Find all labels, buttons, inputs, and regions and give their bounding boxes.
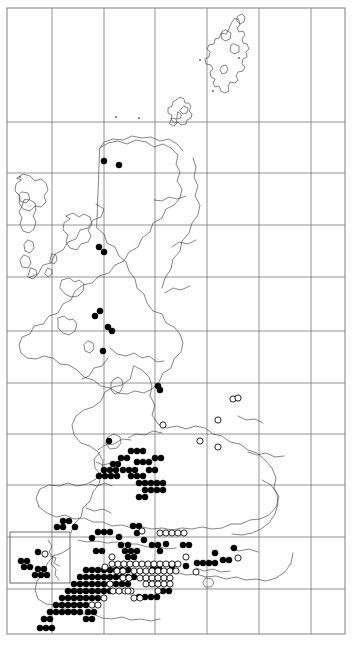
record-symbol-filled-circle [77, 609, 83, 615]
record-symbol-filled-circle [148, 487, 154, 493]
record-symbol-filled-circle [220, 557, 226, 563]
record-symbol-tiny-dot [138, 117, 140, 119]
record-symbol-open-circle [137, 595, 143, 601]
record-symbol-filled-circle [160, 487, 166, 493]
record-symbol-filled-circle [47, 609, 53, 615]
record-symbol-open-circle [155, 588, 161, 594]
record-symbol-open-circle [235, 395, 241, 401]
record-symbol-filled-circle [32, 572, 38, 578]
record-symbol-filled-circle [148, 480, 154, 486]
record-symbol-filled-circle [93, 548, 99, 554]
record-symbol-open-circle [151, 561, 157, 567]
record-symbol-filled-circle [160, 480, 166, 486]
record-symbol-filled-circle [37, 625, 43, 631]
record-symbol-filled-circle [101, 588, 107, 594]
record-symbol-filled-circle [142, 494, 148, 500]
record-symbol-open-circle [183, 554, 189, 560]
record-symbol-filled-circle [102, 473, 108, 479]
record-symbol-filled-circle [194, 560, 200, 566]
record-symbol-filled-circle [226, 557, 232, 563]
record-symbol-filled-circle [107, 529, 113, 535]
record-symbol-filled-circle [71, 602, 77, 608]
record-symbol-filled-circle [85, 609, 91, 615]
record-symbol-open-circle [155, 568, 161, 574]
record-symbol-open-circle [139, 561, 145, 567]
record-symbol-filled-circle [95, 588, 101, 594]
record-symbol-filled-circle [154, 480, 160, 486]
record-symbol-open-circle [169, 530, 175, 536]
record-symbol-open-circle [215, 417, 221, 423]
record-symbol-open-circle [125, 588, 131, 594]
record-symbol-filled-circle [35, 549, 41, 555]
record-symbol-open-circle [120, 568, 126, 574]
record-symbol-filled-circle [59, 602, 65, 608]
record-symbol-open-circle [95, 602, 101, 608]
record-symbol-filled-circle [158, 455, 164, 461]
record-symbol-filled-circle [44, 572, 50, 578]
record-symbol-filled-circle [115, 461, 121, 467]
record-symbol-filled-circle [65, 609, 71, 615]
record-symbol-filled-circle [155, 542, 161, 548]
record-symbol-filled-circle [77, 574, 83, 580]
record-symbol-filled-circle [118, 542, 124, 548]
record-symbol-filled-circle [125, 542, 131, 548]
record-symbol-filled-circle [89, 574, 95, 580]
record-symbol-open-circle [109, 554, 115, 560]
record-symbol-filled-circle [113, 467, 119, 473]
record-symbol-filled-circle [134, 548, 140, 554]
record-symbol-filled-circle [113, 581, 119, 587]
record-symbol-filled-circle [142, 487, 148, 493]
record-symbol-filled-circle [21, 564, 27, 570]
record-symbol-filled-circle [108, 473, 114, 479]
distribution-map-figure [0, 0, 353, 648]
record-symbol-open-circle [157, 530, 163, 536]
record-symbol-filled-circle [128, 473, 134, 479]
record-symbol-open-circle [193, 569, 199, 575]
record-symbol-filled-circle [47, 616, 53, 622]
record-symbol-open-circle [107, 581, 113, 587]
record-symbol-filled-circle [126, 467, 132, 473]
record-symbol-open-circle [89, 602, 95, 608]
record-symbol-filled-circle [186, 542, 192, 548]
record-symbol-filled-circle [140, 459, 146, 465]
record-symbol-filled-circle [83, 581, 89, 587]
record-symbol-open-circle [120, 575, 126, 581]
record-symbol-filled-circle [148, 594, 154, 600]
record-symbol-filled-circle [95, 574, 101, 580]
record-symbol-open-circle [163, 530, 169, 536]
record-symbol-filled-circle [119, 581, 125, 587]
record-symbol-filled-circle [91, 609, 97, 615]
record-symbol-open-circle [155, 575, 161, 581]
record-symbol-filled-circle [128, 548, 134, 554]
map-canvas [0, 0, 353, 648]
record-symbol-open-circle [137, 568, 143, 574]
record-symbol-filled-circle [83, 588, 89, 594]
record-symbol-tiny-dot [19, 176, 21, 178]
record-symbol-filled-circle [125, 581, 131, 587]
record-symbol-filled-circle [212, 550, 218, 556]
record-symbol-filled-circle [41, 566, 47, 572]
record-symbol-filled-circle [109, 328, 115, 334]
record-symbol-filled-circle [166, 588, 172, 594]
record-symbol-filled-circle [95, 581, 101, 587]
record-symbol-open-circle [167, 575, 173, 581]
record-symbol-filled-circle [24, 558, 30, 564]
record-symbol-filled-circle [54, 524, 60, 530]
record-symbol-filled-circle [71, 581, 77, 587]
record-symbol-filled-circle [59, 609, 65, 615]
record-symbol-open-circle [42, 551, 48, 557]
record-symbol-filled-circle [41, 616, 47, 622]
record-symbol-open-circle [126, 575, 132, 581]
record-symbol-open-circle [169, 561, 175, 567]
record-symbol-filled-circle [116, 162, 122, 168]
record-symbol-filled-circle [200, 560, 206, 566]
record-symbol-open-circle [161, 575, 167, 581]
record-symbol-filled-circle [140, 448, 146, 454]
record-symbol-filled-circle [141, 537, 147, 543]
record-symbol-open-circle [149, 581, 155, 587]
record-symbol-filled-circle [206, 560, 212, 566]
record-symbol-filled-circle [89, 581, 95, 587]
record-symbol-filled-circle [157, 387, 163, 393]
record-symbol-open-circle [131, 568, 137, 574]
record-symbol-filled-circle [163, 541, 169, 547]
